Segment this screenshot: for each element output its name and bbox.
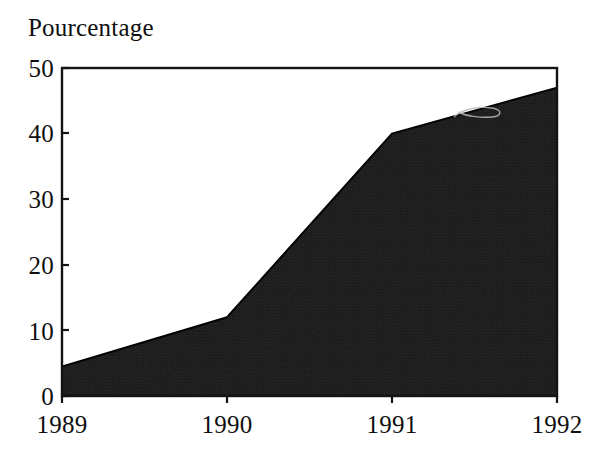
area-grain-texture <box>62 88 557 396</box>
plot-area <box>0 0 598 462</box>
chart-container: Pourcentage 50 40 30 20 10 0 1989 1990 1… <box>0 0 598 462</box>
area-series-pourcentage <box>62 88 557 396</box>
